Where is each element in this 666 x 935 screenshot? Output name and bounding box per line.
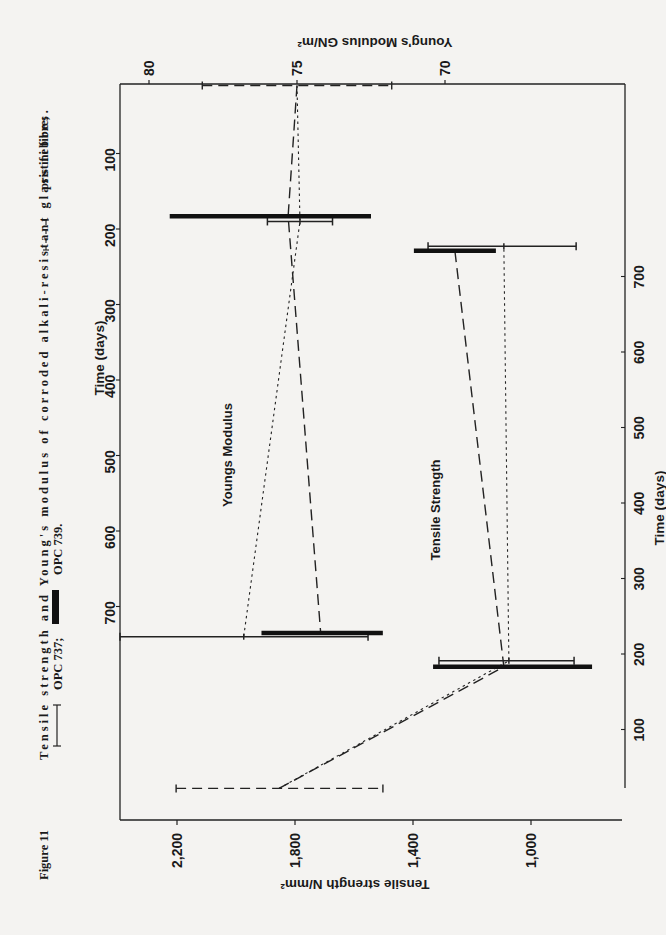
modulus-tick-label: 70	[437, 60, 453, 76]
upper-time-axis-title: Time (days)	[92, 321, 107, 396]
lower-time-tick-label: 600	[631, 340, 647, 364]
opc739-trend-line	[279, 251, 504, 789]
legend-thick-bar-icon	[52, 590, 59, 624]
upper-time-tick-label: 300	[102, 299, 118, 323]
opc737-trend-line	[279, 246, 509, 788]
legend-label-opc739: OPC 739.	[51, 524, 65, 575]
data-series	[120, 82, 592, 793]
tensile-tick-label: 1,000	[523, 833, 539, 868]
modulus-tick-label: 80	[141, 60, 157, 76]
upper-time-tick-label: 600	[102, 525, 118, 549]
lower-time-tick-label: 400	[631, 491, 647, 515]
youngs-modulus-axis-title: Young's Modulus GN/m²	[297, 35, 453, 50]
lower-time-tick-label: 300	[631, 567, 647, 591]
tensile-tick-label: 1,400	[405, 833, 421, 868]
upper-time-tick-label: 500	[102, 450, 118, 474]
tensile-strength-axis-title: Tensile strength N/mm²	[280, 877, 430, 892]
tensile-strength-panel-label: Tensile Strength	[428, 460, 443, 561]
lower-time-tick-label: 100	[631, 718, 647, 742]
figure-label: Figure 11	[37, 830, 51, 880]
tensile-tick-label: 2,200	[169, 833, 185, 868]
opc737-trend-line	[244, 86, 300, 637]
youngs-modulus-panel-label: Youngs Modulus	[220, 403, 235, 507]
opc739-trend-line	[288, 86, 321, 633]
legend-thin-errorbar-icon	[53, 705, 61, 746]
upper-time-tick-label: 200	[102, 223, 118, 247]
upper-time-tick-label: 100	[102, 148, 118, 172]
chart-figure: Figure 11 Tensile strength and Young's m…	[0, 0, 666, 935]
caption-text: Tensile strength and Young's modulus of …	[37, 110, 51, 760]
axis-ticks: 8075702,2001,8001,4001,00010010020020030…	[102, 60, 647, 868]
legend-label-opc737: OPC 737;	[51, 638, 65, 690]
lower-time-axis-title: Time (days)	[652, 471, 666, 546]
plot-frame	[120, 84, 625, 820]
upper-time-tick-label: 700	[102, 601, 118, 625]
lower-time-tick-label: 700	[631, 265, 647, 289]
lower-time-tick-label: 500	[631, 416, 647, 440]
modulus-tick-label: 75	[289, 60, 305, 76]
caption: Figure 11 Tensile strength and Young's m…	[37, 110, 65, 880]
lower-time-tick-label: 200	[631, 642, 647, 666]
legend-label-pristine: pristine fibre;	[37, 116, 51, 190]
tensile-tick-label: 1,800	[287, 833, 303, 868]
